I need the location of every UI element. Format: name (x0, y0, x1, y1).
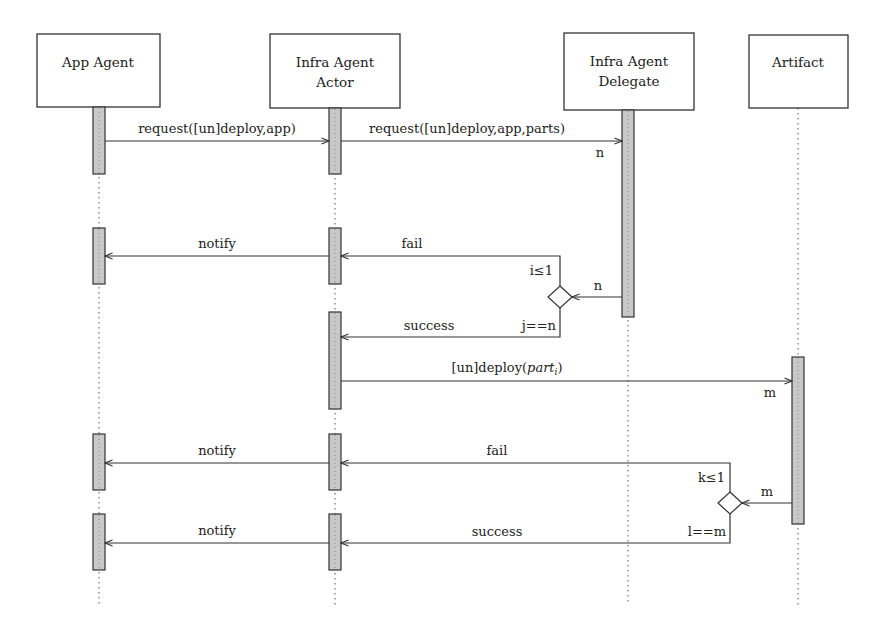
activation-actor-3 (329, 312, 341, 409)
label-guard-k: k≤1 (698, 470, 725, 485)
participant-label: Infra Agent (296, 54, 375, 70)
participant-label: Artifact (771, 54, 825, 70)
activation-actor-5 (329, 514, 341, 570)
activation-delegate (622, 110, 634, 317)
activations (93, 107, 804, 570)
participant-artifact: Artifact (749, 35, 848, 108)
sequence-diagram: App Agent Infra Agent Actor Infra Agent … (0, 0, 886, 636)
message-fail-2 (341, 463, 730, 492)
label-fail-2: fail (487, 443, 508, 458)
label-multiplicity-m: m (764, 385, 776, 400)
label-success-2: success (472, 524, 523, 539)
label-guard-j: j==n (520, 318, 557, 333)
label-deploy-part: [un]deploy(parti) (451, 360, 562, 377)
participant-label: Delegate (598, 73, 659, 89)
label-notify-1: notify (198, 236, 236, 251)
activation-app-2 (93, 228, 105, 284)
activation-app-4 (93, 514, 105, 570)
participant-app: App Agent (37, 34, 160, 107)
label-request-parts: request([un]deploy,app,parts) (369, 121, 565, 136)
label-request-app: request([un]deploy,app) (138, 121, 296, 136)
label-success-1: success (404, 318, 455, 333)
label-notify-3: notify (198, 523, 236, 538)
decision-diamond-1 (548, 286, 572, 308)
participant-label: Actor (315, 74, 354, 90)
activation-app-3 (93, 434, 105, 490)
participant-label: App Agent (61, 54, 134, 70)
message-fail-1 (341, 256, 560, 286)
participant-label: Infra Agent (590, 53, 669, 69)
activation-actor-4 (329, 434, 341, 490)
label-guard-i: i≤1 (530, 263, 553, 278)
activation-actor-2 (329, 228, 341, 284)
label-guard-l: l==m (688, 524, 726, 539)
decision-diamond-2 (718, 492, 742, 514)
message-success-2 (341, 514, 730, 543)
participant-infra-agent-actor: Infra Agent Actor (270, 34, 400, 108)
label-notify-2: notify (198, 443, 236, 458)
label-decision1-in: n (594, 278, 603, 293)
label-fail-1: fail (402, 236, 423, 251)
label-multiplicity-n: n (596, 145, 605, 160)
activation-dots (99, 108, 798, 569)
participant-infra-agent-delegate: Infra Agent Delegate (564, 33, 694, 110)
label-decision2-in: m (761, 484, 773, 499)
